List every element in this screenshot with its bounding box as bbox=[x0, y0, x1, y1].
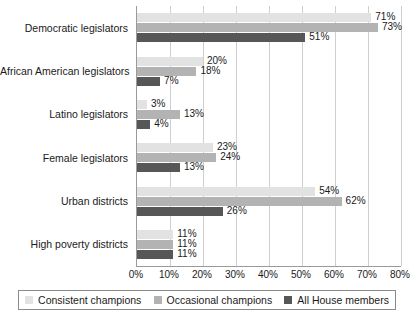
category-label: High poverty districts bbox=[0, 238, 128, 250]
category-label: African American legislators bbox=[0, 65, 128, 77]
x-tick-label: 10% bbox=[159, 268, 179, 282]
category-label: Latino legislators bbox=[0, 108, 128, 120]
gridline bbox=[203, 6, 204, 266]
category-label: Urban districts bbox=[0, 195, 128, 207]
gridline bbox=[269, 6, 270, 266]
bar-value-label: 26% bbox=[227, 205, 247, 217]
bar-group: 71%73%51% bbox=[137, 13, 401, 42]
x-tick-label: 40% bbox=[258, 268, 278, 282]
bar-group: 20%18%7% bbox=[137, 57, 401, 86]
bar-chart: Democratic legislatorsAfrican American l… bbox=[0, 0, 414, 320]
legend-swatch-icon bbox=[284, 296, 292, 304]
x-tick-label: 0% bbox=[129, 268, 143, 282]
gridline bbox=[368, 6, 369, 266]
legend-item[interactable]: Consistent champions bbox=[25, 294, 141, 306]
bar[interactable] bbox=[137, 57, 203, 66]
x-tick-label: 70% bbox=[357, 268, 377, 282]
bar-value-label: 13% bbox=[184, 161, 204, 173]
legend-swatch-icon bbox=[154, 296, 162, 304]
bar-group: 3%13%4% bbox=[137, 100, 401, 129]
bar-group: 23%24%13% bbox=[137, 143, 401, 172]
bar-value-label: 73% bbox=[382, 21, 402, 33]
bar-value-label: 7% bbox=[164, 75, 178, 87]
legend-label: Occasional champions bbox=[167, 294, 273, 306]
bar[interactable] bbox=[137, 100, 147, 109]
bar[interactable] bbox=[137, 250, 173, 259]
legend-swatch-icon bbox=[25, 296, 33, 304]
bar[interactable] bbox=[137, 187, 315, 196]
bar[interactable] bbox=[137, 77, 160, 86]
bar-value-label: 62% bbox=[346, 195, 366, 207]
plot-area: 71%73%51%20%18%7%3%13%4%23%24%13%54%62%2… bbox=[136, 6, 401, 267]
x-tick-label: 80% bbox=[390, 268, 410, 282]
bar-value-label: 11% bbox=[177, 248, 196, 260]
gridline bbox=[401, 6, 402, 266]
x-tick-label: 60% bbox=[324, 268, 344, 282]
x-tick-label: 50% bbox=[291, 268, 311, 282]
bar[interactable] bbox=[137, 207, 223, 216]
bar[interactable] bbox=[137, 13, 371, 22]
legend-label: All House members bbox=[297, 294, 389, 306]
legend-item[interactable]: All House members bbox=[284, 294, 389, 306]
category-label: Democratic legislators bbox=[0, 22, 128, 34]
legend-label: Consistent champions bbox=[38, 294, 141, 306]
plot-wrapper: Democratic legislatorsAfrican American l… bbox=[0, 0, 414, 268]
category-label: Female legislators bbox=[0, 152, 128, 164]
bar[interactable] bbox=[137, 240, 173, 249]
bar[interactable] bbox=[137, 230, 173, 239]
bar[interactable] bbox=[137, 163, 180, 172]
x-tick-label: 20% bbox=[192, 268, 212, 282]
x-axis-ticks: 0%10%20%30%40%50%60%70%80% bbox=[136, 268, 400, 284]
bar[interactable] bbox=[137, 33, 305, 42]
bar[interactable] bbox=[137, 143, 213, 152]
category-axis-labels: Democratic legislatorsAfrican American l… bbox=[0, 6, 132, 266]
bar-group: 54%62%26% bbox=[137, 187, 401, 216]
chart-legend: Consistent championsOccasional champions… bbox=[18, 290, 396, 310]
bar-value-label: 51% bbox=[309, 31, 329, 43]
gridline bbox=[302, 6, 303, 266]
bar[interactable] bbox=[137, 23, 378, 32]
bar-value-label: 3% bbox=[151, 98, 165, 110]
gridline bbox=[170, 6, 171, 266]
bar-value-label: 24% bbox=[220, 151, 240, 163]
gridline bbox=[236, 6, 237, 266]
bar-group: 11%11%11% bbox=[137, 230, 401, 259]
bar-value-label: 4% bbox=[154, 118, 168, 130]
bar-value-label: 54% bbox=[319, 185, 339, 197]
bar[interactable] bbox=[137, 120, 150, 129]
legend-item[interactable]: Occasional champions bbox=[154, 294, 273, 306]
gridline bbox=[335, 6, 336, 266]
bar-value-label: 18% bbox=[200, 65, 220, 77]
bar-value-label: 13% bbox=[184, 108, 204, 120]
x-tick-label: 30% bbox=[225, 268, 245, 282]
bar[interactable] bbox=[137, 153, 216, 162]
